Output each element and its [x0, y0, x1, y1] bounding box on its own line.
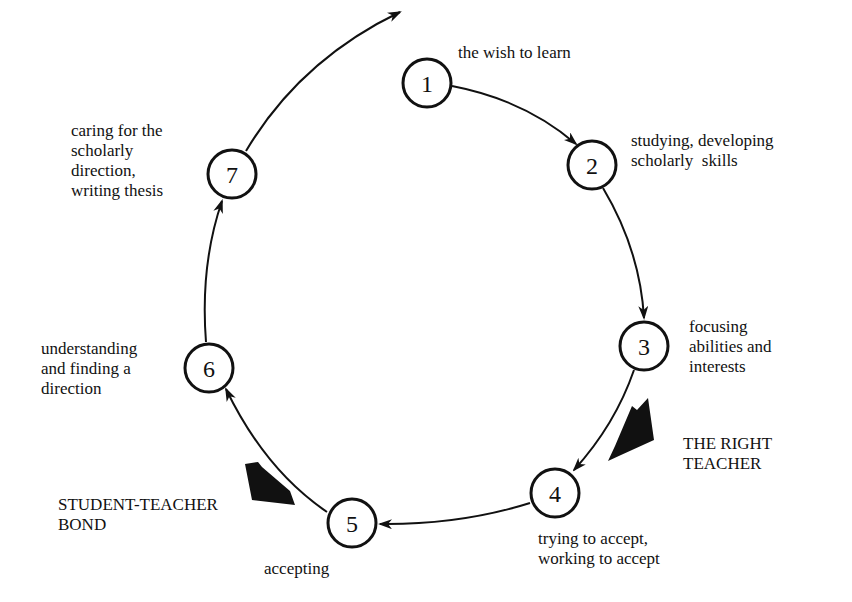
edge-6-7 [205, 201, 222, 342]
node-7-label: caring for the scholarly direction, writ… [71, 121, 163, 201]
node-5-number: 5 [346, 511, 358, 537]
node-3-label: focusing abilities and interests [689, 317, 772, 377]
node-2-number: 2 [586, 153, 598, 179]
student-teacher-bond-label: STUDENT-TEACHER BOND [58, 495, 218, 535]
node-1-label: the wish to learn [458, 43, 571, 63]
edge-4-5 [380, 503, 530, 524]
edge-2-3 [603, 188, 644, 318]
node-7-number: 7 [226, 162, 238, 188]
node-4-number: 4 [549, 481, 561, 507]
edge-1-2 [452, 86, 576, 144]
node-2-label: studying, developing scholarly skills [631, 131, 774, 171]
right-teacher-label: THE RIGHT TEACHER [683, 434, 772, 474]
edge-3-4 [574, 370, 634, 470]
node-5-label: accepting [264, 559, 329, 579]
node-6-label: understanding and finding a direction [41, 339, 137, 399]
node-3-number: 3 [638, 334, 650, 360]
right-teacher-block-arrow-icon [608, 398, 654, 461]
node-6-number: 6 [203, 356, 215, 382]
node-1-number: 1 [421, 71, 433, 97]
edge-7-out [246, 12, 400, 151]
node-4-label: trying to accept, working to accept [538, 529, 660, 569]
student-teacher-bond-block-arrow-icon [245, 462, 295, 505]
